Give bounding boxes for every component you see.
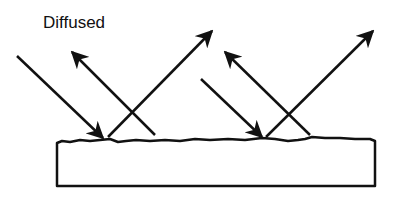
reflected-ray-2a [225, 52, 310, 135]
diffuse-reflection-diagram [0, 0, 396, 199]
incident-ray-1 [17, 56, 103, 138]
reflected-ray-1a [72, 52, 155, 135]
incident-ray-2 [201, 79, 262, 137]
reflected-ray-2b [266, 31, 373, 137]
reflected-ray-1b [108, 31, 212, 137]
rough-surface [57, 137, 375, 186]
